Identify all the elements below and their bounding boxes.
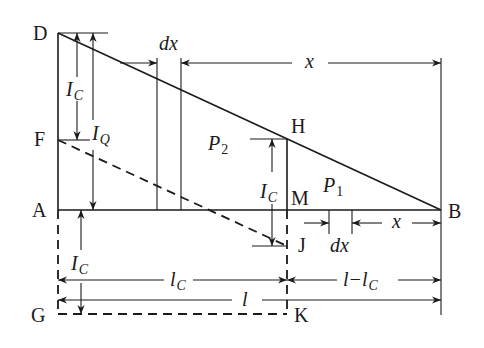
label-G: G (31, 304, 45, 326)
label-x-top: x (304, 50, 314, 72)
label-D: D (33, 22, 47, 44)
label-H: H (291, 115, 305, 137)
influence-line-diagram: D F A G H M J K B IC IQ IC IC P2 P1 dx d… (0, 0, 484, 348)
main-structure (58, 33, 441, 315)
dashed-FJ (58, 140, 287, 246)
label-A: A (32, 199, 47, 221)
label-M: M (291, 187, 309, 209)
label-IQ: IQ (91, 122, 110, 147)
label-F: F (34, 128, 45, 150)
label-K: K (294, 304, 309, 326)
label-dx-bottom: dx (330, 234, 349, 256)
label-l-minus-lC: l−lC (343, 268, 379, 293)
label-IC-bottom: IC (70, 252, 89, 277)
label-l: l (242, 288, 248, 310)
label-x-bottom: x (391, 210, 401, 232)
length-dimensions (58, 280, 441, 300)
label-IC-top: IC (65, 78, 84, 103)
label-P2: P2 (207, 132, 228, 157)
label-dx-top: dx (159, 32, 178, 54)
label-J: J (298, 234, 306, 256)
label-IC-mid: IC (259, 180, 278, 205)
label-B: B (448, 200, 461, 222)
quantity-labels: IC IQ IC IC P2 P1 dx dx x x lC l l−lC (65, 32, 401, 310)
label-lC: lC (170, 268, 187, 293)
line-DB (58, 33, 441, 210)
label-P1: P1 (322, 174, 343, 199)
dx-strip-bottom (304, 210, 441, 234)
